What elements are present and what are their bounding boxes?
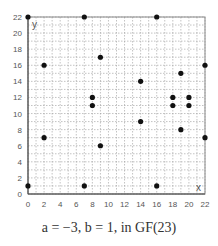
grid-lines (28, 17, 205, 194)
svg-text:18: 18 (168, 200, 177, 209)
svg-text:12: 12 (120, 200, 129, 209)
scatter-plot: 02468101214161820220246810121416182022 x… (0, 0, 218, 215)
svg-text:8: 8 (18, 126, 23, 135)
x-axis-label: x (196, 182, 201, 193)
chart-caption: a = −3, b = 1, in GF(23) (0, 220, 218, 236)
svg-text:20: 20 (13, 29, 22, 38)
svg-text:6: 6 (74, 200, 79, 209)
svg-text:14: 14 (136, 200, 145, 209)
y-axis-label: y (32, 19, 37, 30)
svg-text:2: 2 (18, 174, 23, 183)
svg-text:4: 4 (58, 200, 63, 209)
svg-text:0: 0 (26, 200, 31, 209)
svg-text:22: 22 (201, 200, 210, 209)
svg-text:22: 22 (13, 13, 22, 22)
svg-text:16: 16 (13, 61, 22, 70)
svg-text:18: 18 (13, 45, 22, 54)
svg-text:2: 2 (42, 200, 47, 209)
svg-text:10: 10 (13, 110, 22, 119)
svg-text:12: 12 (13, 93, 22, 102)
svg-text:16: 16 (152, 200, 161, 209)
svg-text:6: 6 (18, 142, 23, 151)
svg-text:20: 20 (184, 200, 193, 209)
svg-text:10: 10 (104, 200, 113, 209)
svg-text:4: 4 (18, 158, 23, 167)
svg-text:8: 8 (90, 200, 95, 209)
tick-labels: 02468101214161820220246810121416182022 (13, 13, 210, 209)
svg-text:14: 14 (13, 77, 22, 86)
svg-text:0: 0 (18, 190, 23, 199)
